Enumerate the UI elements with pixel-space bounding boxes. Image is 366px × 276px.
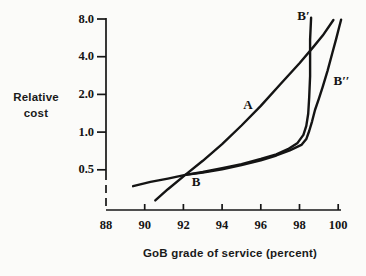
y-axis-title: Relative cost bbox=[4, 90, 68, 121]
x-tick-label-92: 92 bbox=[166, 219, 200, 232]
curve-label-a: A bbox=[238, 98, 258, 111]
x-tick-label-96: 96 bbox=[244, 219, 278, 232]
point-label-b: B bbox=[186, 175, 206, 188]
y-tick-label-4.0: 4.0 bbox=[62, 50, 94, 63]
x-tick-label-100: 100 bbox=[321, 219, 355, 232]
y-tick-label-8.0: 8.0 bbox=[62, 13, 94, 26]
chart-canvas bbox=[0, 0, 366, 276]
axis-ticks bbox=[97, 19, 338, 210]
chart: Relative cost GoB grade of service (perc… bbox=[0, 0, 366, 276]
curve-label-b-prime: B′ bbox=[291, 9, 316, 22]
x-axis-title: GoB grade of service (percent) bbox=[120, 246, 340, 262]
x-tick-label-88: 88 bbox=[89, 219, 123, 232]
y-tick-label-0.5: 0.5 bbox=[62, 163, 94, 176]
x-tick-label-98: 98 bbox=[283, 219, 317, 232]
y-tick-label-2.0: 2.0 bbox=[62, 88, 94, 101]
curve-label-b-double-prime: B′′ bbox=[327, 74, 356, 87]
x-tick-label-94: 94 bbox=[205, 219, 239, 232]
y-tick-label-1.0: 1.0 bbox=[62, 126, 94, 139]
curve-B-Bprime bbox=[133, 18, 311, 187]
x-tick-label-90: 90 bbox=[128, 219, 162, 232]
